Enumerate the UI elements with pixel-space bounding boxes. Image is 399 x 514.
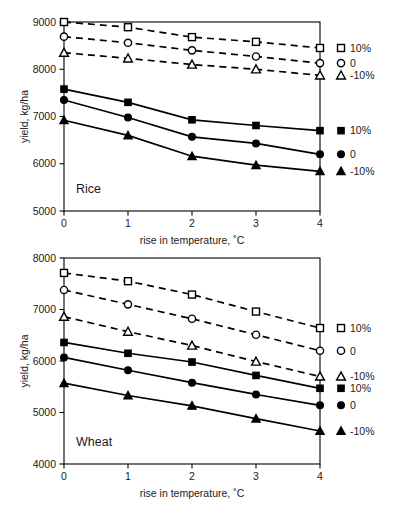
y-tick-label: 7000 (33, 303, 57, 315)
data-point (125, 367, 132, 374)
legend-label: 10% (350, 42, 371, 54)
legend-marker (337, 372, 346, 380)
legend-marker (337, 427, 345, 435)
y-axis-title: yield, kg/ha (18, 334, 30, 387)
data-point (316, 60, 323, 67)
data-point (61, 86, 67, 92)
data-point (189, 133, 196, 140)
data-point (61, 354, 68, 361)
x-tick-label: 1 (125, 217, 131, 229)
x-axis-title: rise in temperature, ˚C (140, 234, 245, 246)
data-point (253, 308, 260, 315)
data-point (316, 347, 323, 354)
y-axis: 50006000700080009000 (33, 16, 64, 217)
data-point (253, 38, 260, 45)
chart-panel-rice: 5000600070008000900001234rise in tempera… (0, 0, 399, 257)
chart-svg: 4000500060007000800001234rise in tempera… (0, 250, 399, 514)
chart-panel-wheat: 4000500060007000800001234rise in tempera… (0, 250, 399, 514)
data-point (125, 99, 131, 105)
data-point (61, 269, 68, 276)
y-tick-label: 8000 (33, 63, 57, 75)
data-point (253, 122, 259, 128)
series-solid-neg10pct (60, 116, 324, 175)
data-point (188, 341, 197, 349)
data-point (60, 286, 67, 293)
x-tick-label: 3 (253, 217, 259, 229)
y-tick-label: 9000 (33, 16, 57, 28)
data-point (189, 291, 196, 298)
data-point (317, 44, 324, 51)
panel-label: Wheat (76, 435, 113, 449)
legend-marker (338, 44, 345, 51)
legend-marker (337, 347, 344, 354)
data-point (316, 372, 325, 380)
x-tick-label: 0 (61, 470, 67, 482)
panel-label: Rice (76, 182, 101, 196)
x-axis: 01234 (61, 211, 323, 229)
data-point (125, 278, 132, 285)
data-point (253, 140, 260, 147)
y-tick-label: 5000 (33, 406, 57, 418)
x-tick-label: 3 (253, 470, 259, 482)
figure-root: 5000600070008000900001234rise in tempera… (0, 0, 399, 514)
data-point (252, 53, 259, 60)
y-tick-label: 7000 (33, 110, 57, 122)
data-point (253, 391, 260, 398)
data-point (189, 359, 195, 365)
data-point (60, 116, 68, 124)
data-point (253, 372, 259, 378)
legend-marker (338, 385, 344, 391)
legend-marker (338, 325, 345, 332)
x-tick-label: 4 (317, 470, 323, 482)
legend-label: 10% (350, 322, 371, 334)
y-axis: 40005000600070008000 (33, 252, 64, 470)
legend-label: 10% (350, 124, 371, 136)
data-point (317, 402, 324, 409)
legend-marker (337, 60, 344, 67)
data-point (188, 47, 195, 54)
x-tick-label: 4 (317, 217, 323, 229)
data-point (60, 33, 67, 40)
data-point (125, 350, 131, 356)
legend-label: 10% (350, 382, 371, 394)
data-point (317, 127, 323, 133)
y-tick-label: 5000 (33, 205, 57, 217)
data-point (252, 331, 259, 338)
data-point (124, 301, 131, 308)
legend: 10%0-10%10%0-10% (337, 322, 375, 437)
data-point (61, 97, 68, 104)
data-point (189, 34, 196, 41)
legend-label: -10% (350, 69, 375, 81)
legend-label: -10% (350, 370, 375, 382)
legend-marker (337, 71, 346, 79)
y-tick-label: 6000 (33, 157, 57, 169)
y-tick-label: 4000 (33, 458, 57, 470)
data-point (61, 339, 67, 345)
legend-marker (337, 167, 345, 175)
data-point (124, 39, 131, 46)
data-point (317, 151, 324, 158)
data-point (188, 315, 195, 322)
legend-label: 0 (350, 399, 356, 411)
y-tick-label: 6000 (33, 355, 57, 367)
data-point (60, 379, 68, 387)
legend-label: 0 (350, 57, 356, 69)
legend-label: 0 (350, 148, 356, 160)
x-tick-label: 2 (189, 217, 195, 229)
legend-label: -10% (350, 165, 375, 177)
legend-marker (338, 402, 345, 409)
y-axis-title: yield, kg/ha (18, 90, 30, 143)
legend-marker (338, 127, 344, 133)
data-point (317, 385, 323, 391)
series-solid-neg10pct (60, 379, 324, 435)
data-point (125, 114, 132, 121)
data-point (61, 19, 68, 26)
data-point (189, 117, 195, 123)
chart-svg: 5000600070008000900001234rise in tempera… (0, 0, 399, 257)
data-point (125, 24, 132, 31)
data-point (60, 312, 69, 320)
legend-marker (338, 151, 345, 158)
x-axis: 01234 (61, 464, 323, 482)
x-tick-label: 2 (189, 470, 195, 482)
data-point (189, 379, 196, 386)
